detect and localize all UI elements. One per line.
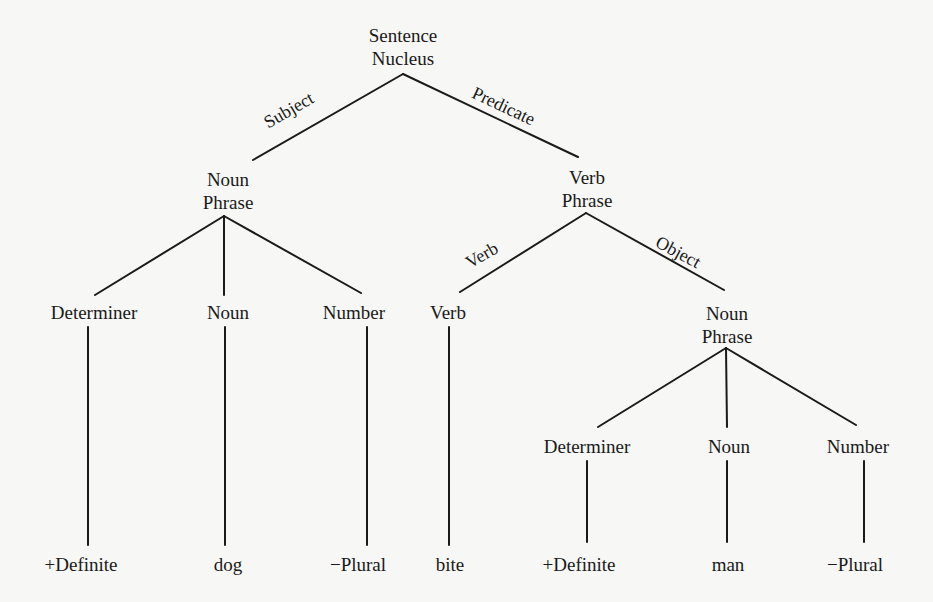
node-label-line1: Noun xyxy=(203,168,254,191)
node-subject-noun-phrase: Noun Phrase xyxy=(203,168,254,214)
leaf-dog: dog xyxy=(214,553,243,576)
node-label-line2: Nucleus xyxy=(369,47,438,70)
edge-obj-number xyxy=(726,348,856,425)
node-verb: Verb xyxy=(430,301,466,324)
node-label-line1: Sentence xyxy=(369,24,438,47)
node-obj-determiner: Determiner xyxy=(544,435,631,458)
tree-lines xyxy=(0,0,933,602)
node-obj-noun: Noun xyxy=(708,435,750,458)
node-label-line1: Noun xyxy=(702,302,753,325)
leaf-bite: bite xyxy=(436,553,465,576)
node-sentence-nucleus: Sentence Nucleus xyxy=(369,24,438,70)
leaf-obj-plural: −Plural xyxy=(827,553,883,576)
node-determiner: Determiner xyxy=(51,301,138,324)
node-noun: Noun xyxy=(207,301,249,324)
leaf-definite: +Definite xyxy=(45,553,118,576)
edge-np-determiner xyxy=(95,216,224,295)
edge-np-number xyxy=(224,216,361,293)
node-label-line2: Phrase xyxy=(203,191,254,214)
node-label-line2: Phrase xyxy=(562,189,613,212)
node-number: Number xyxy=(323,301,385,324)
edge-obj-determiner xyxy=(598,348,726,427)
leaf-man: man xyxy=(712,553,745,576)
node-label-line2: Phrase xyxy=(702,325,753,348)
node-verb-phrase: Verb Phrase xyxy=(562,166,613,212)
edge-obj-noun xyxy=(726,348,727,427)
leaf-obj-definite: +Definite xyxy=(543,553,616,576)
node-label-line1: Verb xyxy=(562,166,613,189)
node-object-noun-phrase: Noun Phrase xyxy=(702,302,753,348)
edge-predicate xyxy=(403,74,578,157)
node-obj-number: Number xyxy=(827,435,889,458)
leaf-plural: −Plural xyxy=(330,553,386,576)
